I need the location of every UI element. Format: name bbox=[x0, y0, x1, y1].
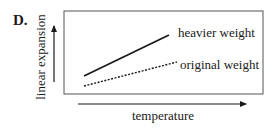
x-axis-label: temperature bbox=[132, 108, 194, 123]
diagram-canvas: D. linear expansion temperature heavier … bbox=[0, 0, 275, 130]
series-original-weight-label: original weight bbox=[180, 57, 259, 72]
series-heavier-weight-label: heavier weight bbox=[178, 25, 255, 40]
y-axis-label: linear expansion bbox=[33, 14, 48, 100]
plot-frame bbox=[64, 11, 263, 94]
series-heavier-weight-line bbox=[84, 35, 169, 76]
series-original-weight-line bbox=[84, 62, 177, 86]
option-label: D. bbox=[13, 12, 28, 28]
